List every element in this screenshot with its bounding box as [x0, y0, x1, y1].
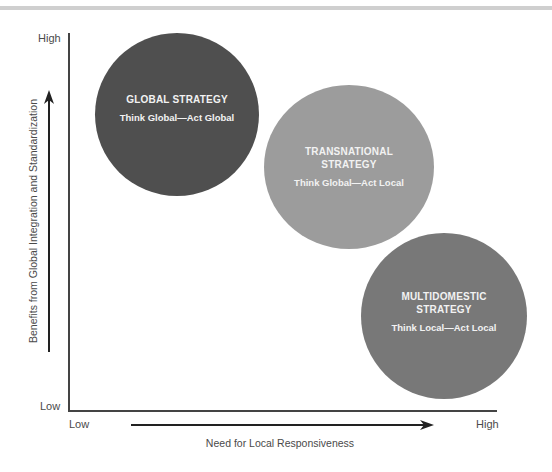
right-arrow-icon [131, 420, 434, 430]
transnational-strategy-title: TRANSNATIONAL STRATEGY [289, 145, 409, 171]
top-rule-divider [0, 6, 552, 10]
x-axis-line [68, 410, 497, 412]
global-strategy-title: GLOBAL STRATEGY [126, 93, 228, 106]
global-strategy-circle: GLOBAL STRATEGY Think Global—Act Global [95, 33, 259, 196]
up-arrow-icon [44, 90, 54, 352]
y-axis-low-label: Low [40, 400, 60, 412]
y-axis-high-label: High [38, 32, 61, 44]
multidomestic-strategy-motto: Think Local—Act Local [391, 322, 496, 334]
y-axis-line [68, 33, 70, 412]
transnational-strategy-motto: Think Global—Act Local [294, 177, 404, 189]
x-axis-title: Need for Local Responsiveness [206, 437, 354, 449]
multidomestic-strategy-title: MULTIDOMESTIC STRATEGY [384, 290, 504, 316]
y-axis-title: Benefits from Global Integration and Sta… [27, 99, 39, 343]
x-axis-low-label: Low [69, 418, 89, 430]
global-strategy-motto: Think Global—Act Global [120, 112, 235, 124]
transnational-strategy-circle: TRANSNATIONAL STRATEGY Think Global—Act … [264, 85, 434, 249]
x-axis-high-label: High [476, 418, 499, 430]
multidomestic-strategy-circle: MULTIDOMESTIC STRATEGY Think Local—Act L… [361, 233, 527, 399]
